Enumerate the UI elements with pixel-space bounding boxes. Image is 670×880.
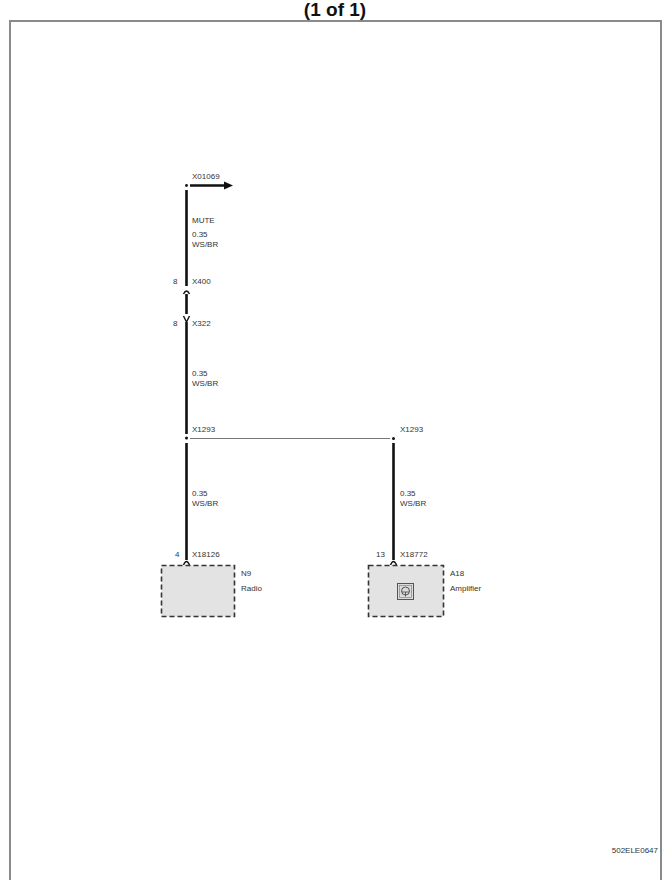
- wire-color-label: WS/BR: [400, 499, 426, 508]
- component-connector: X18772: [400, 550, 428, 559]
- wire-gauge-label: 0.35: [192, 369, 208, 378]
- socket-icon: [184, 291, 190, 294]
- connector-pin: 8: [173, 319, 178, 328]
- wire-color-label: WS/BR: [192, 379, 218, 388]
- continuation-connector[interactable]: X01069: [185, 172, 233, 190]
- speaker-module-icon: [398, 584, 414, 600]
- socket-icon: [184, 562, 190, 566]
- splice-label: X1293: [192, 425, 216, 434]
- splice-left[interactable]: X1293: [185, 425, 216, 440]
- pin-icon: [184, 316, 190, 322]
- component-pin: 13: [376, 550, 385, 559]
- wire-radio-branch[interactable]: 0.35 WS/BR: [187, 443, 219, 560]
- component-id: A18: [450, 569, 465, 578]
- connector-pin: 8: [173, 277, 178, 286]
- wire-color-label: WS/BR: [192, 240, 218, 249]
- splice-dot: [185, 437, 188, 440]
- connector-dot: [185, 184, 188, 187]
- socket-icon: [391, 562, 397, 566]
- component-amplifier[interactable]: 13 X18772 A18 Amplifier: [369, 550, 482, 617]
- component-box: [162, 566, 235, 617]
- component-connector: X18126: [192, 550, 220, 559]
- splice-dot: [392, 437, 395, 440]
- splice-label: X1293: [400, 425, 424, 434]
- component-radio[interactable]: 4 X18126 N9 Radio: [162, 550, 263, 617]
- connector-name: X400: [192, 277, 211, 286]
- component-name: Amplifier: [450, 584, 481, 593]
- component-pin: 4: [175, 550, 180, 559]
- document-id: 502ELE0647: [612, 846, 658, 855]
- component-name: Radio: [241, 584, 262, 593]
- arrow-head-icon: [224, 182, 233, 190]
- connector-name: X322: [192, 319, 211, 328]
- splice-right[interactable]: X1293: [392, 425, 424, 440]
- wire-middle[interactable]: 0.35 WS/BR: [187, 322, 219, 434]
- continuation-label: X01069: [192, 172, 220, 181]
- wire-signal-label: MUTE: [192, 216, 215, 225]
- inline-connector-x322[interactable]: 8 X322: [173, 316, 211, 328]
- wire-gauge-label: 0.35: [192, 489, 208, 498]
- inline-connector-x400[interactable]: 8 X400: [173, 277, 211, 294]
- component-id: N9: [241, 569, 252, 578]
- wire-color-label: WS/BR: [192, 499, 218, 508]
- wire-gauge-label: 0.35: [192, 230, 208, 239]
- wire-top[interactable]: MUTE 0.35 WS/BR: [187, 190, 219, 286]
- wire-amplifier-branch[interactable]: 0.35 WS/BR: [394, 443, 427, 560]
- wire-gauge-label: 0.35: [400, 489, 416, 498]
